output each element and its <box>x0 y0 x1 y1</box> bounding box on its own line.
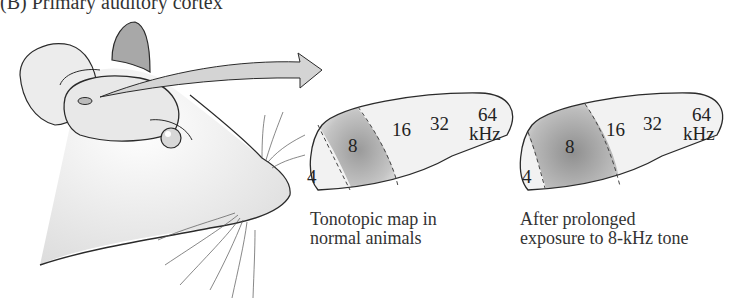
freq-label-16: 16 <box>606 119 625 140</box>
caption-line: exposure to 8-kHz tone <box>520 229 688 248</box>
freq-unit-label: kHz <box>683 123 715 144</box>
eye-icon <box>161 128 181 148</box>
ear-icon <box>112 22 150 72</box>
freq-label-4: 4 <box>307 166 317 187</box>
freq-label-64: 64 <box>478 104 498 125</box>
freq-label-32: 32 <box>643 113 662 134</box>
auditory-cortex-marker <box>78 98 92 105</box>
freq-label-64: 64 <box>692 104 712 125</box>
caption-line: Tonotopic map in <box>310 210 437 229</box>
freq-label-8: 8 <box>348 135 358 156</box>
figure-canvas: 4 8 16 32 64 kHz 4 8 16 32 64 kHz <box>0 0 743 302</box>
caption-line: normal animals <box>310 229 437 248</box>
tonotopic-map-normal: 4 8 16 32 64 kHz <box>307 93 513 195</box>
freq-unit-label: kHz <box>469 123 501 144</box>
freq-label-4: 4 <box>522 166 532 187</box>
freq-label-32: 32 <box>430 113 449 134</box>
caption-normal: Tonotopic map in normal animals <box>310 210 437 248</box>
caption-line: After prolonged <box>520 210 688 229</box>
freq-label-16: 16 <box>392 119 411 140</box>
freq-label-8: 8 <box>565 136 575 157</box>
tonotopic-map-exposed: 4 8 16 32 64 kHz <box>520 93 722 195</box>
caption-exposed: After prolonged exposure to 8-kHz tone <box>520 210 688 248</box>
